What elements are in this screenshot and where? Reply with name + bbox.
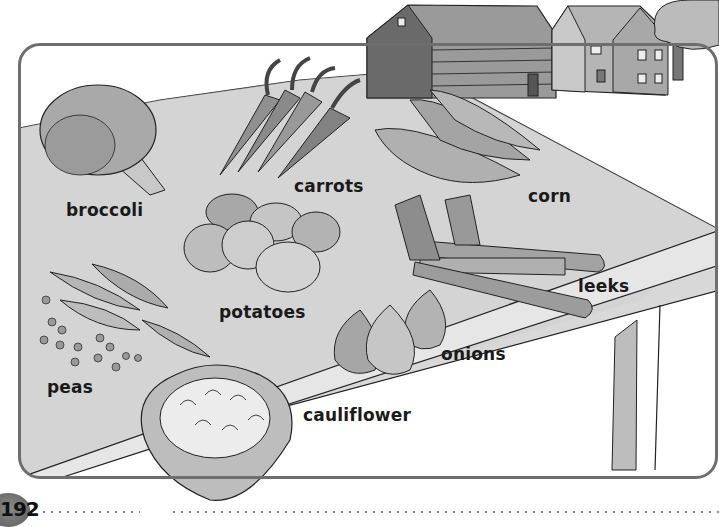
label-broccoli: broccoli	[66, 200, 143, 220]
dotted-rule-right	[170, 510, 719, 514]
page-number: 192	[0, 497, 39, 521]
label-peas: peas	[47, 377, 93, 397]
label-onions: onions	[441, 344, 506, 364]
label-leeks: leeks	[578, 276, 629, 296]
dotted-rule-left	[40, 510, 140, 514]
label-potatoes: potatoes	[219, 302, 306, 322]
label-cauliflower: cauliflower	[303, 405, 411, 425]
label-carrots: carrots	[294, 176, 364, 196]
label-corn: corn	[528, 186, 571, 206]
